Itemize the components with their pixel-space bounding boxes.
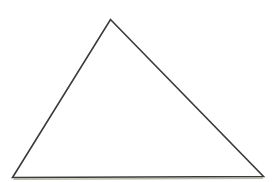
base-scan-shadow xyxy=(14,178,264,179)
triangle-drawing xyxy=(0,0,275,182)
figure-canvas xyxy=(0,0,275,182)
triangle-outline xyxy=(13,20,264,178)
